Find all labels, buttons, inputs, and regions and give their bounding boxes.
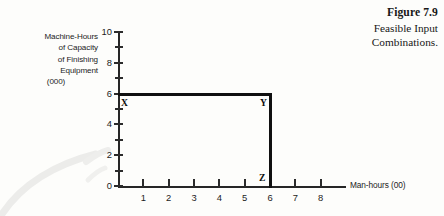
x-tick-label: 8 xyxy=(311,192,331,203)
x-tick-major xyxy=(193,179,195,187)
y-tick-label: 6 xyxy=(90,88,112,99)
y-tick-major xyxy=(114,154,123,156)
y-tick-minor xyxy=(115,108,123,110)
x-tick-major xyxy=(244,179,246,187)
x-axis-title: Man-hours (00) xyxy=(350,180,405,190)
plot-area: 0246810 12345678 X Y Z Man-hours (00) xyxy=(0,0,444,216)
y-tick-minor xyxy=(115,46,123,48)
y-axis-line xyxy=(118,32,120,188)
x-tick-major xyxy=(168,179,170,187)
y-tick-minor xyxy=(115,170,123,172)
point-label-y: Y xyxy=(260,97,267,108)
y-tick-label: 0 xyxy=(90,180,112,191)
x-tick-label: 5 xyxy=(235,192,255,203)
x-tick-label: 4 xyxy=(209,192,229,203)
y-tick-label: 2 xyxy=(90,149,112,160)
x-tick-label: 2 xyxy=(159,192,179,203)
y-tick-minor xyxy=(115,139,123,141)
y-tick-major xyxy=(114,123,123,125)
feasible-boundary-vertical xyxy=(269,93,272,188)
x-tick-major xyxy=(320,179,322,187)
x-tick-major xyxy=(218,179,220,187)
x-tick-label: 1 xyxy=(133,192,153,203)
y-tick-major xyxy=(114,185,123,187)
point-label-x: X xyxy=(121,97,128,108)
x-tick-major xyxy=(294,179,296,187)
x-axis-line xyxy=(118,186,346,188)
y-tick-label: 4 xyxy=(90,118,112,129)
feasible-boundary-horizontal xyxy=(118,93,272,96)
x-tick-label: 6 xyxy=(260,192,280,203)
y-tick-major xyxy=(114,31,123,33)
point-label-z: Z xyxy=(259,172,265,183)
x-tick-label: 3 xyxy=(184,192,204,203)
y-tick-label: 8 xyxy=(90,57,112,68)
x-tick-major xyxy=(142,179,144,187)
x-tick-label: 7 xyxy=(285,192,305,203)
y-tick-label: 10 xyxy=(90,26,112,37)
y-tick-major xyxy=(114,62,123,64)
y-tick-minor xyxy=(115,77,123,79)
figure-container: Figure 7.9 Feasible Input Combinations. … xyxy=(0,0,444,216)
